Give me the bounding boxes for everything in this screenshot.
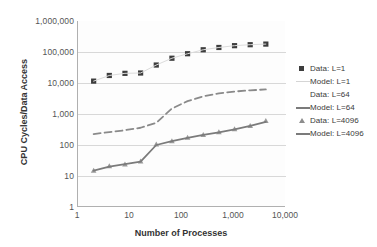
legend-item-label: Data: L=1 [310,62,345,75]
plot-area [77,21,285,207]
y-tick-label: 1,000 [2,110,74,119]
y-tick-label: 1,000,000 [2,17,74,26]
legend-item[interactable]: Data: L=4096 [296,114,377,127]
x-axis-title: Number of Processes [77,228,285,238]
legend-line-faint-icon [296,75,310,88]
series-data-l-1 [91,41,268,83]
y-tick-label: 10 [2,172,74,181]
series-model-l-4096 [94,122,266,171]
legend-key-glyph [296,107,310,109]
legend-square-icon [296,62,310,75]
legend-item-label: Data: L=4096 [310,114,359,127]
y-tick-label: 100,000 [2,48,74,57]
y-axis-title: CPU Cycles/Data Access [19,22,29,202]
x-tick-label: 1 [47,211,107,220]
x-tick-label: 100 [151,211,211,220]
legend-item[interactable]: Model: L=64 [296,101,377,114]
cropped-header-band [70,0,310,8]
legend-line-icon [296,101,310,114]
x-axis-ticks: 1101001,00010,000 [0,211,377,223]
legend-key-glyph [296,133,310,135]
legend-item[interactable]: Data: L=1 [296,62,377,75]
y-axis-ticks: 1101001,00010,000100,0001,000,000 [0,0,74,247]
legend-item-label: Model: L=64 [310,101,355,114]
legend-item-label: Model: L=4096 [310,127,364,140]
series-line [94,122,266,171]
legend-key-glyph [299,66,304,71]
legend-line-icon [296,127,310,140]
series-layer [78,21,286,207]
legend-item-label: Data: L=64 [310,88,350,101]
x-tick-label: 1,000 [203,211,263,220]
legend-triangle-icon [296,114,310,127]
x-tick-label: 10,000 [255,211,315,220]
chart-figure: 1101001,00010,000100,0001,000,000 110100… [0,0,377,247]
y-tick-label: 10,000 [2,79,74,88]
series-line [94,44,266,81]
x-tick-label: 10 [99,211,159,220]
legend-item[interactable]: Data: L=64 [296,88,377,101]
legend-key-glyph [299,118,305,123]
y-tick-label: 100 [2,141,74,150]
legend-item[interactable]: Model: L=4096 [296,127,377,140]
legend-item-label: Model: L=1 [310,75,350,88]
legend-blank-icon [296,88,310,101]
legend-key-glyph [296,81,310,82]
legend-item[interactable]: Model: L=1 [296,75,377,88]
series-model-l-1 [94,44,266,81]
chart-legend: Data: L=1Model: L=1Data: L=64Model: L=64… [296,62,377,140]
